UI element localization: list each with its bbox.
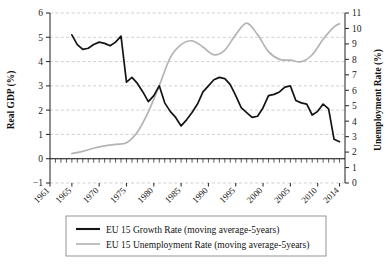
legend-label-unemployment: EU 15 Unemployment Rate (moving average-…: [106, 240, 309, 251]
y-tick-label: 6: [38, 8, 43, 18]
y2-tick-label: 1: [352, 163, 357, 173]
y2-tick-label: 3: [352, 132, 357, 142]
y-tick-label: 1: [38, 130, 43, 140]
series-group: [72, 23, 340, 154]
y-tick-label: 5: [38, 33, 43, 43]
chart-figure: 6543210−1 11109876543210 196119651970197…: [0, 0, 391, 268]
y2-tick-label: 0: [352, 178, 357, 188]
axes-group: [46, 13, 349, 187]
x-tick-label: 1970: [81, 185, 101, 205]
x-tick-label: 2010: [299, 185, 319, 205]
y2-tick-label: 4: [352, 117, 357, 127]
y2-tick-label: 10: [352, 24, 362, 34]
series-line-growth: [72, 35, 340, 142]
y2-axis-title: Unemployment Rate (%): [373, 49, 384, 151]
y2-tick-label: 7: [352, 70, 357, 80]
y-tick-label: 3: [38, 81, 43, 91]
x-tick-label: 1975: [108, 185, 128, 205]
y-tick-label: 2: [38, 106, 43, 116]
y2-tick-label: 9: [352, 39, 357, 49]
x-tick-label: 2005: [272, 185, 292, 205]
x-tick-label: 1990: [190, 185, 210, 205]
legend-border: [66, 216, 326, 256]
y-axis-ticklabels: 6543210−1: [33, 8, 43, 188]
y2-axis-ticklabels: 11109876543210: [352, 8, 362, 188]
y-tick-label: 4: [38, 57, 43, 67]
x-tick-label: 1980: [135, 185, 155, 205]
chart-svg: 6543210−1 11109876543210 196119651970197…: [0, 0, 391, 268]
gridlines-group: [50, 13, 345, 183]
x-tick-label: 1965: [53, 185, 73, 205]
x-tick-label: 1995: [217, 185, 237, 205]
legend-label-growth: EU 15 Growth Rate (moving average-5years…: [106, 225, 279, 236]
y2-tick-label: 2: [352, 147, 357, 157]
y-tick-label: 0: [38, 154, 43, 164]
x-tick-label: 2000: [245, 185, 265, 205]
y2-tick-label: 8: [352, 55, 357, 65]
y2-tick-label: 6: [352, 86, 357, 96]
y2-tick-label: 5: [352, 101, 357, 111]
x-axis-ticklabels: 1961196519701975198019851990199520002005…: [32, 185, 342, 205]
y-axis-title: Real GDP (%): [6, 71, 17, 130]
legend: EU 15 Growth Rate (moving average-5years…: [66, 216, 326, 256]
x-tick-label: 2014: [321, 185, 341, 205]
x-tick-label: 1985: [163, 185, 183, 205]
y2-tick-label: 11: [352, 8, 361, 18]
